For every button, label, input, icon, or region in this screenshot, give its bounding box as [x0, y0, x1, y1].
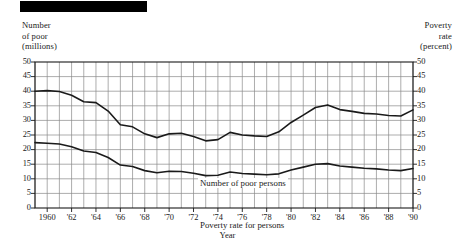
x-axis-title: Year: [0, 230, 455, 240]
right-axis-tick-5: 5: [417, 189, 443, 197]
left-axis-tick-50: 50: [5, 58, 31, 66]
left-axis-tick-5: 5: [5, 189, 31, 197]
right-axis-tick-labels: 05101520253035404550: [417, 62, 447, 208]
right-axis-tick-35: 35: [417, 102, 443, 110]
right-axis-tick-40: 40: [417, 87, 443, 95]
x-axis-tick-labels: 1960'62'64'66'68'70'72'74'76'78'80'82'84…: [35, 213, 413, 225]
series-line-poverty-rate: [35, 143, 413, 176]
right-axis-tick-20: 20: [417, 145, 443, 153]
right-axis-tick-15: 15: [417, 160, 443, 168]
black-rule-bar: [20, 1, 147, 12]
right-axis-tick-10: 10: [417, 175, 443, 183]
right-axis-tick-0: 0: [417, 204, 443, 212]
right-axis-title: Poverty rate (percent): [420, 20, 452, 52]
series-annotation-number-of-poor: Number of poor persons: [198, 178, 288, 188]
left-axis-tick-25: 25: [5, 131, 31, 139]
left-axis-tick-45: 45: [5, 72, 31, 80]
series-line-number-of-poor: [35, 91, 413, 141]
left-axis-tick-40: 40: [5, 87, 31, 95]
left-axis-tick-10: 10: [5, 175, 31, 183]
left-axis-tick-15: 15: [5, 160, 31, 168]
left-axis-tick-20: 20: [5, 145, 31, 153]
left-axis-tick-0: 0: [5, 204, 31, 212]
horizontal-gridlines: [35, 77, 413, 194]
right-axis-tick-30: 30: [417, 116, 443, 124]
left-axis-title: Number of poor (millions): [22, 20, 57, 52]
right-axis-tick-45: 45: [417, 72, 443, 80]
plot-area: Number of poor persons Poverty rate for …: [35, 62, 413, 208]
left-axis-tick-35: 35: [5, 102, 31, 110]
x-axis-tick-1990: '90: [396, 213, 430, 222]
left-axis-tick-30: 30: [5, 116, 31, 124]
right-axis-tick-50: 50: [417, 58, 443, 66]
poverty-chart-figure: Number of poor (millions) Poverty rate (…: [0, 0, 455, 252]
left-axis-tick-labels: 05101520253035404550: [3, 62, 31, 208]
right-axis-tick-25: 25: [417, 131, 443, 139]
